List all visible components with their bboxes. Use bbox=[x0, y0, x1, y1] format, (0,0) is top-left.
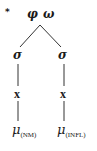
skeletal-node-left: x bbox=[14, 88, 20, 100]
skeletal-node-right: x bbox=[60, 88, 66, 100]
syllable-node-left: σ bbox=[13, 49, 22, 61]
ungrammatical-marker: * bbox=[5, 8, 10, 17]
mora-subscript-left: (NM) bbox=[20, 131, 36, 139]
root-label-omega: ω bbox=[43, 8, 54, 20]
branch-line-left bbox=[20, 25, 40, 47]
mora-node-right: μ(INFL) bbox=[57, 123, 86, 139]
mora-subscript-right: (INFL) bbox=[65, 131, 85, 139]
branch-line-right bbox=[40, 25, 61, 47]
syllable-node-right: σ bbox=[58, 49, 67, 61]
root-label-phi: φ bbox=[27, 8, 38, 20]
mora-node-left: μ(NM) bbox=[12, 123, 36, 139]
